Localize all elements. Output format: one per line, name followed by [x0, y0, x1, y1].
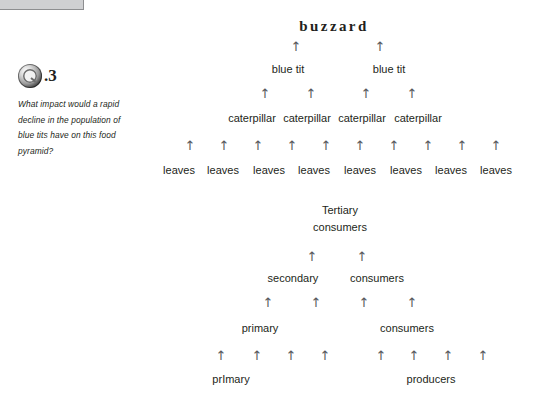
up-arrow-icon: ↑	[320, 349, 331, 362]
up-arrow-icon: ↑	[409, 349, 420, 362]
up-arrow-icon: ↑	[357, 250, 368, 263]
trophic-level-pyramid-tertiary-consumers-level-label: Tertiary	[322, 204, 358, 217]
up-arrow-icon: ↑	[443, 349, 454, 362]
up-arrow-icon: ↑	[407, 296, 418, 309]
trophic-level-pyramid-primary-consumers-level-label: primary	[242, 322, 279, 335]
up-arrow-icon: ↑	[311, 296, 322, 309]
up-arrow-icon: ↑	[376, 349, 387, 362]
trophic-level-pyramid: Tertiaryconsumers↑↑secondaryconsumers↑↑↑…	[0, 0, 558, 399]
trophic-level-pyramid-primary-consumers-level-label: consumers	[380, 322, 434, 335]
up-arrow-icon: ↑	[359, 296, 370, 309]
trophic-level-pyramid-primary-producers-level-label: producers	[407, 373, 456, 386]
trophic-level-pyramid-tertiary-consumers-level-label: consumers	[313, 221, 367, 234]
up-arrow-icon: ↑	[263, 296, 274, 309]
up-arrow-icon: ↑	[252, 349, 263, 362]
up-arrow-icon: ↑	[216, 349, 227, 362]
up-arrow-icon: ↑	[478, 349, 489, 362]
trophic-level-pyramid-secondary-consumers-level-label: secondary	[268, 272, 319, 285]
trophic-level-pyramid-secondary-consumers-level-label: consumers	[350, 272, 404, 285]
trophic-level-pyramid-primary-producers-level-label: prImary	[212, 373, 249, 386]
up-arrow-icon: ↑	[286, 349, 297, 362]
up-arrow-icon: ↑	[307, 250, 318, 263]
